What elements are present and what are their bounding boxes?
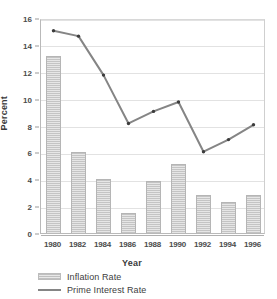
line-data-point <box>202 150 205 153</box>
legend-label-prime-interest-rate: Prime Interest Rate <box>67 285 146 295</box>
legend-bar-swatch-icon <box>38 273 61 280</box>
x-axis-tick-label: 1996 <box>244 240 261 249</box>
x-axis-title-text: Year <box>122 258 142 268</box>
line-data-point <box>177 100 180 103</box>
line-series-prime-interest-rate <box>41 20 266 235</box>
x-axis-tick-label: 1994 <box>219 240 236 249</box>
x-axis-tick-label: 1990 <box>169 240 186 249</box>
y-axis-tick-mark <box>35 19 39 20</box>
y-axis-tick-mark <box>35 180 39 181</box>
y-axis-tick-mark <box>35 45 39 46</box>
line-data-point <box>77 34 80 37</box>
y-axis-tick-label: 12 <box>0 68 32 77</box>
y-axis-tick-mark <box>35 72 39 73</box>
legend-line-swatch-icon <box>38 286 61 293</box>
legend-label-inflation-rate: Inflation Rate <box>67 272 121 282</box>
y-axis-tick-mark <box>35 207 39 208</box>
y-axis-ticks: 0246810121416 <box>0 19 36 234</box>
legend-item-prime-interest-rate: Prime Interest Rate <box>38 283 238 296</box>
y-axis-tick-mark <box>35 153 39 154</box>
y-axis-tick-label: 0 <box>0 230 32 239</box>
x-axis-tick-label: 1986 <box>119 240 136 249</box>
y-axis-tick-mark <box>35 234 39 235</box>
y-axis-tick-label: 4 <box>0 176 32 185</box>
x-axis-tick-label: 1984 <box>94 240 111 249</box>
line-data-point <box>227 138 230 141</box>
plot-area <box>40 19 265 234</box>
line-data-point <box>102 73 105 76</box>
x-axis-title: Year <box>0 258 277 268</box>
y-axis-tick-label: 6 <box>0 149 32 158</box>
line-data-point <box>252 123 255 126</box>
y-axis-tick-label: 2 <box>0 203 32 212</box>
x-axis-tick-label: 1988 <box>144 240 161 249</box>
line-data-point <box>152 110 155 113</box>
y-axis-tick-label: 16 <box>0 15 32 24</box>
y-axis-tick-label: 14 <box>0 41 32 50</box>
chart-legend: Inflation Rate Prime Interest Rate <box>38 270 238 296</box>
legend-item-inflation-rate: Inflation Rate <box>38 270 238 283</box>
line-data-point <box>127 122 130 125</box>
line-path <box>54 31 254 152</box>
y-axis-tick-label: 8 <box>0 122 32 131</box>
x-axis-tick-label: 1980 <box>44 240 61 249</box>
y-axis-tick-label: 10 <box>0 95 32 104</box>
chart-container: Percent 0246810121416 198019821984198619… <box>0 0 277 299</box>
y-axis-tick-mark <box>35 99 39 100</box>
y-axis-tick-mark <box>35 126 39 127</box>
line-data-point <box>52 29 55 32</box>
x-axis-tick-label: 1982 <box>69 240 86 249</box>
x-axis-tick-label: 1992 <box>194 240 211 249</box>
